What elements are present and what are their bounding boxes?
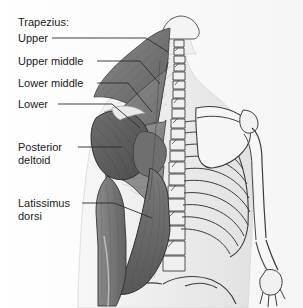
label-posterior-deltoid-line1: Posterior (18, 141, 62, 153)
label-trapezius-heading: Trapezius: (18, 16, 69, 28)
label-trapezius-lower-middle: Lower middle (18, 77, 83, 89)
label-latissimus-dorsi-line2: dorsi (18, 210, 42, 222)
label-trapezius-upper-middle: Upper middle (18, 55, 83, 67)
label-trapezius-upper: Upper (18, 32, 48, 44)
label-trapezius-lower: Lower (18, 98, 48, 110)
label-posterior-deltoid-line2: deltoid (18, 154, 50, 166)
label-latissimus-dorsi-line1: Latissimus (18, 197, 70, 209)
anatomy-figure: Trapezius: Upper Upper middle Lower midd… (0, 0, 303, 308)
